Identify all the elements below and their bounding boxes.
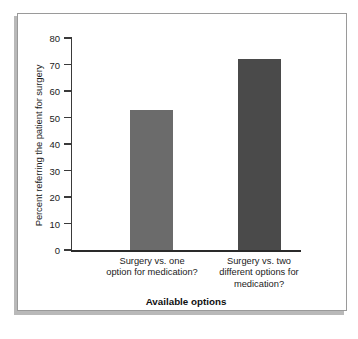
y-tick-label: 20 bbox=[36, 192, 60, 203]
y-axis-line bbox=[71, 37, 72, 251]
x-axis-line bbox=[71, 250, 301, 252]
y-tick-label: 50 bbox=[36, 112, 60, 123]
x-tick-label-line: different options for bbox=[188, 267, 330, 278]
y-tick-mark bbox=[64, 117, 71, 118]
y-tick-mark bbox=[64, 90, 71, 91]
y-tick-mark bbox=[64, 249, 71, 250]
y-tick-label: 0 bbox=[36, 245, 60, 256]
figure-root: Percent referring the patient for surger… bbox=[0, 0, 358, 339]
y-tick-label: 40 bbox=[36, 139, 60, 150]
y-tick-label: 80 bbox=[36, 33, 60, 44]
y-tick-label: 30 bbox=[36, 165, 60, 176]
bar-chart: Percent referring the patient for surger… bbox=[0, 0, 358, 339]
bar-1 bbox=[130, 110, 173, 250]
y-tick-label: 60 bbox=[36, 86, 60, 97]
y-tick-mark bbox=[64, 170, 71, 171]
y-tick-label: 70 bbox=[36, 59, 60, 70]
x-axis-title: Available options bbox=[71, 296, 301, 307]
y-tick-mark bbox=[64, 143, 71, 144]
x-tick-label-line: Surgery vs. two bbox=[188, 256, 330, 267]
bar-2 bbox=[238, 59, 281, 250]
y-tick-mark bbox=[64, 223, 71, 224]
y-tick-mark bbox=[64, 64, 71, 65]
y-tick-label: 10 bbox=[36, 218, 60, 229]
y-tick-mark bbox=[64, 196, 71, 197]
x-tick-label-line: medication? bbox=[188, 279, 330, 290]
y-tick-mark bbox=[64, 37, 71, 38]
x-tick-label: Surgery vs. twodifferent options formedi… bbox=[188, 256, 330, 290]
